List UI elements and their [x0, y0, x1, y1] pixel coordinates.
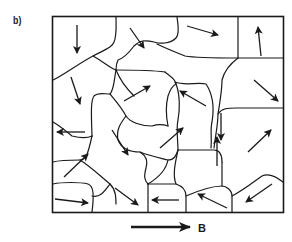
- arrow-icon: [198, 194, 227, 208]
- field-label: B: [198, 222, 206, 234]
- arrow-icon: [248, 130, 271, 152]
- arrow-icon: [258, 27, 261, 56]
- arrow-icon: [187, 26, 218, 35]
- arrow-icon: [64, 154, 88, 177]
- arrow-icon: [130, 28, 144, 48]
- domain-diagram: [0, 0, 292, 242]
- arrow-icon: [115, 188, 138, 205]
- arrow-icon: [112, 130, 128, 155]
- arrow-icon: [55, 199, 88, 203]
- sample-boundary: [53, 17, 284, 213]
- arrow-icon: [180, 91, 206, 106]
- arrow-icon: [246, 184, 272, 202]
- arrow-icon: [160, 128, 183, 148]
- arrow-icon: [124, 86, 150, 101]
- domain-walls: [53, 17, 283, 212]
- arrow-icon: [254, 80, 278, 101]
- arrow-icon: [71, 77, 80, 104]
